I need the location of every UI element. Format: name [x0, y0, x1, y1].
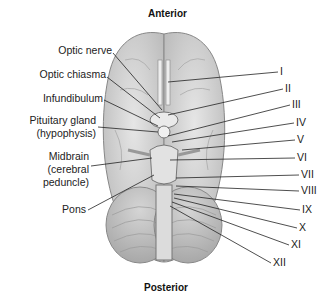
- label-hypophysis: (hypophysis): [36, 127, 96, 139]
- label-cn-vii: VII: [301, 168, 314, 180]
- anterior-label: Anterior: [148, 8, 187, 19]
- brain-diagram: Anterior Posterior Optic nerve Optic chi…: [0, 0, 327, 298]
- label-cerebral: (cerebral: [48, 163, 89, 175]
- label-cn-iii: III: [292, 98, 301, 110]
- label-cn-xii: XII: [273, 256, 286, 268]
- label-cn-ii: II: [285, 82, 291, 94]
- label-infundibulum: Infundibulum: [43, 92, 103, 104]
- label-midbrain: Midbrain: [49, 150, 89, 162]
- label-optic-chiasma: Optic chiasma: [39, 68, 106, 80]
- label-pituitary-gland: Pituitary gland: [29, 114, 96, 126]
- brain-illustration: [0, 0, 327, 298]
- label-cn-ix: IX: [302, 203, 312, 215]
- label-cn-viii: VIII: [301, 184, 317, 196]
- label-pons: Pons: [62, 203, 86, 215]
- posterior-label: Posterior: [144, 282, 188, 293]
- label-cn-v: V: [297, 133, 304, 145]
- label-cn-x: X: [299, 221, 306, 233]
- label-optic-nerve: Optic nerve: [58, 44, 112, 56]
- label-peduncle: peduncle): [43, 176, 89, 188]
- label-cn-i: I: [280, 65, 283, 77]
- label-cn-xi: XI: [291, 238, 301, 250]
- label-cn-vi: VI: [297, 151, 307, 163]
- label-cn-iv: IV: [296, 116, 306, 128]
